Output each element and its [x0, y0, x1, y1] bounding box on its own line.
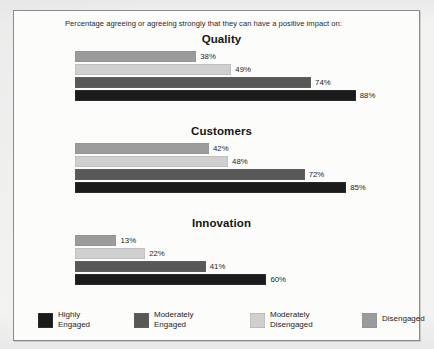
panel-title: Innovation [24, 217, 419, 229]
bar-row: 49% [14, 64, 419, 75]
bar-row: 88% [14, 90, 419, 101]
chart-panel-quality: Quality38%49%74%88% [14, 33, 419, 103]
legend-label: Disengaged [382, 314, 425, 324]
bar-value-label: 48% [232, 156, 248, 167]
bar-row: 48% [14, 156, 419, 167]
legend-label-line2: Engaged [154, 320, 194, 330]
legend-item-moderately-disengaged[interactable]: ModeratelyDisengaged [250, 310, 313, 331]
bar-row: 85% [14, 182, 419, 193]
bar-disengaged [75, 143, 209, 154]
bar-value-label: 49% [235, 64, 251, 75]
bar-value-label: 13% [120, 235, 136, 246]
chart-legend: HighlyEngagedModeratelyEngagedModerately… [14, 310, 434, 349]
bar-disengaged [75, 235, 116, 246]
legend-label: HighlyEngaged [58, 310, 90, 331]
legend-label-line1: Disengaged [382, 314, 425, 324]
legend-item-moderately-engaged[interactable]: ModeratelyEngaged [134, 310, 194, 331]
bar-row: 41% [14, 261, 419, 272]
chart-figure-frame: Percentage agreeing or agreeing strongly… [13, 10, 420, 341]
bar-disengaged [75, 51, 196, 62]
bar-moderately-disengaged [75, 64, 231, 75]
chart-panel-customers: Customers42%48%72%85% [14, 125, 419, 195]
bar-value-label: 38% [200, 51, 216, 62]
bar-row: 60% [14, 274, 419, 285]
legend-label-line1: Moderately [154, 310, 194, 320]
legend-label: ModeratelyDisengaged [270, 310, 313, 331]
bar-moderately-disengaged [75, 156, 228, 167]
bar-row: 42% [14, 143, 419, 154]
legend-swatch-moderately-engaged [134, 313, 149, 328]
bar-value-label: 85% [350, 182, 366, 193]
legend-item-disengaged[interactable]: Disengaged [362, 310, 425, 328]
chart-caption: Percentage agreeing or agreeing strongly… [65, 19, 342, 28]
bar-row: 38% [14, 51, 419, 62]
bar-highly-engaged [75, 90, 356, 101]
bar-value-label: 72% [309, 169, 325, 180]
panel-bars: 42%48%72%85% [14, 143, 419, 195]
bar-moderately-engaged [75, 77, 311, 88]
legend-item-highly-engaged[interactable]: HighlyEngaged [38, 310, 90, 331]
bar-value-label: 88% [360, 90, 376, 101]
bar-highly-engaged [75, 274, 266, 285]
legend-swatch-disengaged [362, 313, 377, 328]
bar-highly-engaged [75, 182, 346, 193]
bar-row: 74% [14, 77, 419, 88]
bar-row: 22% [14, 248, 419, 259]
chart-panel-innovation: Innovation13%22%41%60% [14, 217, 419, 287]
legend-swatch-highly-engaged [38, 313, 53, 328]
bar-moderately-engaged [75, 261, 206, 272]
bar-value-label: 42% [213, 143, 229, 154]
bar-row: 72% [14, 169, 419, 180]
bar-value-label: 74% [315, 77, 331, 88]
panel-bars: 13%22%41%60% [14, 235, 419, 287]
panel-title: Customers [24, 125, 419, 137]
legend-label-line2: Engaged [58, 320, 90, 330]
bar-moderately-disengaged [75, 248, 145, 259]
panel-title: Quality [24, 33, 419, 45]
bar-row: 13% [14, 235, 419, 246]
panel-bars: 38%49%74%88% [14, 51, 419, 103]
bar-value-label: 41% [210, 261, 226, 272]
legend-label-line1: Highly [58, 310, 90, 320]
bar-value-label: 60% [270, 274, 286, 285]
legend-label-line1: Moderately [270, 310, 313, 320]
bar-value-label: 22% [149, 248, 165, 259]
legend-label: ModeratelyEngaged [154, 310, 194, 331]
legend-swatch-moderately-disengaged [250, 313, 265, 328]
bar-moderately-engaged [75, 169, 305, 180]
legend-label-line2: Disengaged [270, 320, 313, 330]
